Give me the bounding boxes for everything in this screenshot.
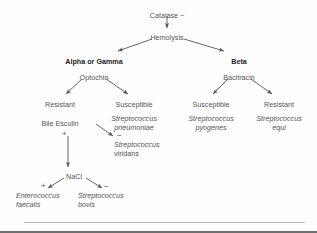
organism-species: bovis [78,200,124,209]
sign-nacl-negative: − [104,183,109,191]
sign-bile-esculin-positive: + [62,130,67,138]
organism-genus: Enterococcus [16,191,60,200]
node-beta: Beta [231,57,247,66]
organism-species: equi [256,123,302,132]
node-alpha-or-gamma: Alpha or Gamma [65,57,123,66]
edge-hemolysis-to-alpha-or-gamma [118,39,152,51]
flowchart-canvas: Catalase − Hemolysis Alpha or Gamma Beta… [0,0,317,233]
sign-bile-esculin-negative: − [117,132,122,140]
organism-streptococcus-pneumoniae: Streptococcus pneumoniae [111,114,157,132]
organism-genus: Streptococcus [78,191,124,200]
node-bacitracin: Bacitracin [223,73,255,82]
node-bile-esculin: Bile Esculin [41,119,78,128]
organism-streptococcus-viridans: Streptococcus viridans [114,140,160,158]
sign-nacl-positive: + [41,182,46,190]
node-bacitracin-resistant: Resistant [264,100,294,109]
organism-streptococcus-equi: Streptococcus equi [256,114,302,132]
node-optochin: Optochin [80,73,109,82]
organism-genus: Streptococcus [111,114,157,123]
node-catalase: Catalase − [150,11,185,20]
organism-genus: Streptococcus [256,114,302,123]
horizontal-divider [24,222,305,223]
edge-hemolysis-to-beta [184,39,224,51]
footer-edge-line [0,231,317,233]
node-hemolysis: Hemolysis [150,33,183,42]
edge-optochin-to-susceptible [106,79,128,94]
organism-streptococcus-pyogenes: Streptococcus pyogenes [188,114,234,132]
organism-genus: Streptococcus [114,140,160,149]
node-optochin-resistant: Resistant [45,100,75,109]
edge-nacl-to-bovis [86,178,102,188]
organism-enterococcus-faecalis: Enterococcus faecalis [16,191,60,209]
node-bacitracin-susceptible: Susceptible [192,100,229,109]
organism-species: pyogenes [188,123,234,132]
organism-species: viridans [114,149,160,158]
node-optochin-susceptible: Susceptible [115,100,152,109]
node-nacl: NaCl [66,172,82,181]
edge-nacl-to-faecalis [48,178,64,188]
organism-species: faecalis [16,200,60,209]
organism-genus: Streptococcus [188,114,234,123]
organism-streptococcus-bovis: Streptococcus bovis [78,191,124,209]
